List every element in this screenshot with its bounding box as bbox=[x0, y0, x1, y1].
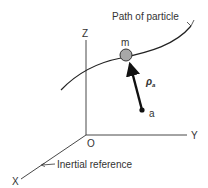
path-label: Path of particle bbox=[112, 11, 179, 22]
x-axis-label: X bbox=[12, 176, 19, 187]
path-end-arrow-icon bbox=[187, 20, 194, 26]
vector-label: ρa bbox=[145, 76, 156, 88]
particle-label: m bbox=[121, 37, 129, 48]
point-a-label: a bbox=[149, 108, 155, 119]
particle-path-diagram: Path of particle Z m ρa a O Y X Inertial… bbox=[0, 0, 208, 188]
particle-m bbox=[120, 49, 132, 61]
origin-label: O bbox=[87, 138, 95, 149]
x-axis bbox=[21, 135, 86, 179]
inertial-reference-label: Inertial reference bbox=[57, 159, 132, 170]
point-a bbox=[139, 107, 144, 112]
y-axis-label: Y bbox=[191, 130, 198, 141]
position-vector-arrow bbox=[130, 64, 142, 110]
inertial-reference-leader bbox=[42, 164, 55, 165]
z-axis-label: Z bbox=[82, 28, 88, 39]
